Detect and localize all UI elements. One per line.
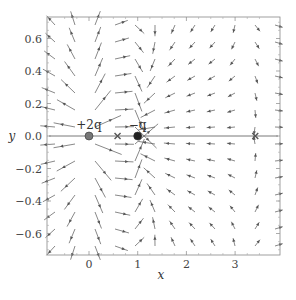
y-tick-label: 0.4 xyxy=(25,65,43,78)
field-arrows xyxy=(40,11,283,260)
y-tick-label: −0.4 xyxy=(15,195,42,208)
charge-label: +2q xyxy=(76,118,102,132)
y-tick-label: −0.2 xyxy=(15,163,42,176)
x-axis-label: x xyxy=(158,268,165,282)
charge-marker xyxy=(134,132,142,140)
y-tick-label: 0.0 xyxy=(25,130,43,143)
x-tick-label: 1 xyxy=(134,258,141,271)
y-tick-label: −0.6 xyxy=(15,228,42,241)
vector-field-plot: 01230.60.40.20.0−0.2−0.4−0.6 +2q−q x y xyxy=(0,0,296,300)
x-tick-label: 3 xyxy=(232,258,239,271)
x-tick-label: 2 xyxy=(183,258,190,271)
y-axis-label: y xyxy=(8,129,16,143)
x-tick-label: 0 xyxy=(86,258,93,271)
charge-label: −q xyxy=(129,118,147,132)
y-tick-label: 0.6 xyxy=(25,33,43,46)
y-tick-label: 0.2 xyxy=(25,98,43,111)
charge-markers: +2q−q xyxy=(76,118,258,140)
charge-marker xyxy=(85,132,93,140)
